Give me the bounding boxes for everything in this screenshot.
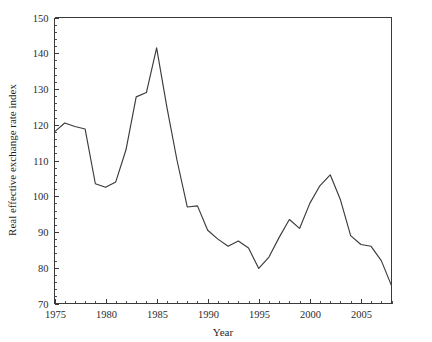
x-tick-label: 1985 bbox=[147, 309, 168, 320]
x-axis-title: Year bbox=[213, 326, 234, 338]
x-axis-tick-labels: 1975198019851990199520002005 bbox=[45, 309, 372, 320]
x-axis-ticks bbox=[56, 299, 362, 304]
y-tick-label: 80 bbox=[38, 263, 49, 274]
y-tick-label: 120 bbox=[33, 120, 49, 131]
y-tick-label: 140 bbox=[33, 48, 49, 59]
x-tick-label: 1980 bbox=[96, 309, 117, 320]
y-tick-label: 150 bbox=[33, 13, 49, 24]
data-series-group bbox=[55, 48, 392, 286]
x-tick-label: 1995 bbox=[249, 309, 270, 320]
y-axis-title: Real effective exchange rate index bbox=[6, 84, 18, 236]
x-tick-label: 1975 bbox=[45, 309, 66, 320]
y-tick-label: 100 bbox=[33, 191, 49, 202]
x-tick-label: 1990 bbox=[198, 309, 219, 320]
series-line-rer-index bbox=[55, 48, 392, 286]
x-tick-label: 2000 bbox=[300, 309, 321, 320]
y-axis-tick-labels: 708090100110120130140150 bbox=[33, 13, 49, 310]
y-tick-label: 110 bbox=[33, 156, 48, 167]
x-tick-label: 2005 bbox=[351, 309, 372, 320]
y-tick-label: 130 bbox=[33, 84, 49, 95]
plot-area-frame bbox=[55, 18, 392, 304]
y-tick-label: 90 bbox=[38, 227, 49, 238]
chart-figure: 708090100110120130140150 197519801985199… bbox=[0, 0, 432, 342]
line-chart: 708090100110120130140150 197519801985199… bbox=[0, 0, 432, 342]
